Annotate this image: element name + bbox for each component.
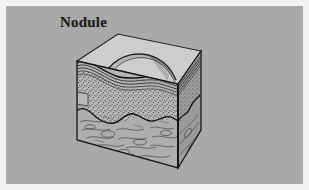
figure-label-nodule: Nodule <box>60 14 107 31</box>
figure-plate: Nodule <box>0 0 309 190</box>
skin-block-diagram <box>0 0 309 190</box>
